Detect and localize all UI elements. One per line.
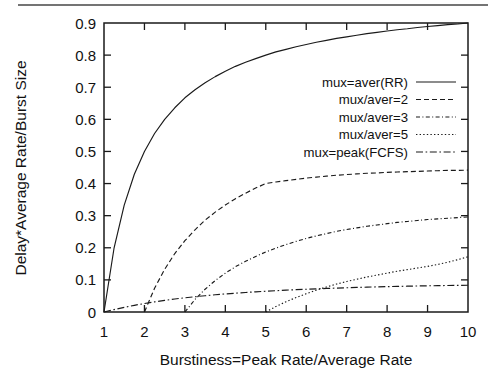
x-tick-label: 6 bbox=[302, 323, 310, 340]
x-tick-label: 3 bbox=[181, 323, 189, 340]
curve-mux-aver-5 bbox=[266, 257, 468, 312]
curve-mux-aver-2 bbox=[144, 170, 468, 312]
legend-label: mux/aver=5 bbox=[339, 127, 408, 142]
y-axis-title: Delay*Average Rate/Burst Size bbox=[12, 60, 29, 275]
x-axis-title: Burstiness=Peak Rate/Average Rate bbox=[160, 351, 413, 368]
legend-label: mux=peak(FCFS) bbox=[304, 145, 408, 160]
x-tick-label: 2 bbox=[140, 323, 148, 340]
y-tick-label: 0.6 bbox=[75, 111, 96, 128]
y-tick-label: 0 bbox=[88, 304, 96, 321]
legend-label: mux/aver=2 bbox=[339, 92, 408, 107]
curve-mux-aver-rr- bbox=[104, 23, 468, 312]
x-tick-label: 1 bbox=[100, 323, 108, 340]
x-tick-label: 10 bbox=[460, 323, 477, 340]
y-tick-label: 0.5 bbox=[75, 143, 96, 160]
legend-label: mux=aver(RR) bbox=[322, 75, 408, 90]
plot-frame bbox=[104, 23, 468, 312]
y-tick-label: 0.9 bbox=[75, 15, 96, 32]
y-tick-label: 0.4 bbox=[75, 175, 96, 192]
y-tick-labels: 00.10.20.30.40.50.60.70.80.9 bbox=[75, 15, 96, 321]
y-tick-label: 0.1 bbox=[75, 271, 96, 288]
x-tick-label: 5 bbox=[262, 323, 270, 340]
chart-svg: Delay*Average Rate/Burst Size 00.10.20.3… bbox=[0, 0, 498, 376]
data-curves bbox=[104, 23, 468, 312]
x-tick-label: 8 bbox=[383, 323, 391, 340]
y-tick-label: 0.3 bbox=[75, 207, 96, 224]
y-tick-label: 0.8 bbox=[75, 47, 96, 64]
x-tick-label: 4 bbox=[221, 323, 229, 340]
figure-canvas: Delay*Average Rate/Burst Size 00.10.20.3… bbox=[0, 0, 498, 376]
x-tick-labels: 12345678910 bbox=[100, 323, 477, 340]
x-tick-label: 9 bbox=[423, 323, 431, 340]
legend: mux=aver(RR)mux/aver=2mux/aver=3mux/aver… bbox=[304, 75, 456, 160]
y-tick-label: 0.7 bbox=[75, 79, 96, 96]
legend-label: mux/aver=3 bbox=[339, 110, 408, 125]
curve-mux-peak-fcfs- bbox=[104, 285, 468, 312]
x-tick-label: 7 bbox=[342, 323, 350, 340]
y-axis-title-group: Delay*Average Rate/Burst Size bbox=[12, 60, 29, 275]
curve-mux-aver-3 bbox=[185, 217, 468, 312]
axis-tick-marks bbox=[104, 23, 468, 312]
y-tick-label: 0.2 bbox=[75, 239, 96, 256]
